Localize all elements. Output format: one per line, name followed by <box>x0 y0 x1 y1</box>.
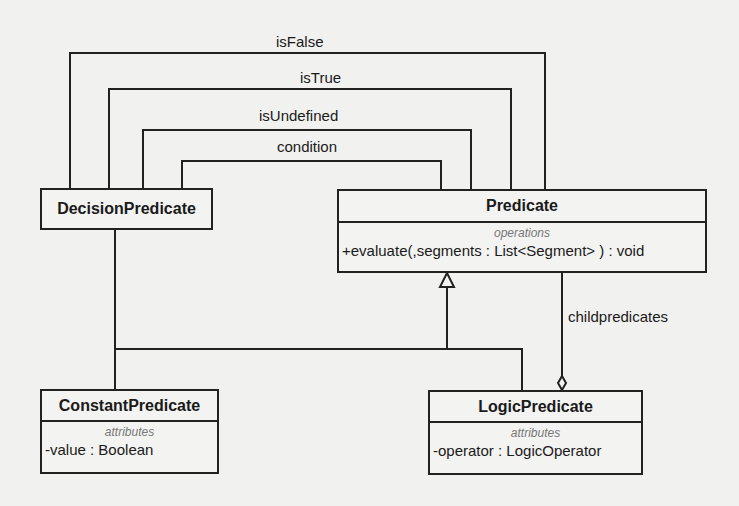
section-label: attributes <box>45 425 214 440</box>
label-isundefined: isUndefined <box>259 107 338 124</box>
class-name: ConstantPredicate <box>42 391 217 422</box>
section-label: operations <box>342 226 702 241</box>
class-constant-predicate[interactable]: ConstantPredicate attributes -value : Bo… <box>40 389 219 474</box>
generalization-arrow-icon <box>440 273 454 287</box>
class-decision-predicate[interactable]: DecisionPredicate <box>40 188 213 230</box>
label-istrue: isTrue <box>300 69 341 86</box>
class-predicate[interactable]: Predicate operations +evaluate(,segments… <box>337 189 707 273</box>
section-label: attributes <box>433 426 638 441</box>
operations-section: operations +evaluate(,segments : List<Se… <box>339 223 705 260</box>
attribute-value: -value : Boolean <box>45 440 214 459</box>
attributes-section: attributes -operator : LogicOperator <box>430 423 641 460</box>
operation-evaluate: +evaluate(,segments : List<Segment> ) : … <box>342 241 702 260</box>
class-name: LogicPredicate <box>430 392 641 423</box>
attributes-section: attributes -value : Boolean <box>42 422 217 459</box>
generalization-bus <box>115 349 522 390</box>
aggregation-diamond-icon <box>558 376 566 390</box>
association-condition <box>182 161 441 190</box>
label-childpredicates: childpredicates <box>568 308 668 325</box>
label-isfalse: isFalse <box>276 33 324 50</box>
class-logic-predicate[interactable]: LogicPredicate attributes -operator : Lo… <box>428 390 643 475</box>
class-name: DecisionPredicate <box>42 190 211 228</box>
class-name: Predicate <box>339 191 705 223</box>
attribute-operator: -operator : LogicOperator <box>433 441 638 460</box>
label-condition: condition <box>277 138 337 155</box>
